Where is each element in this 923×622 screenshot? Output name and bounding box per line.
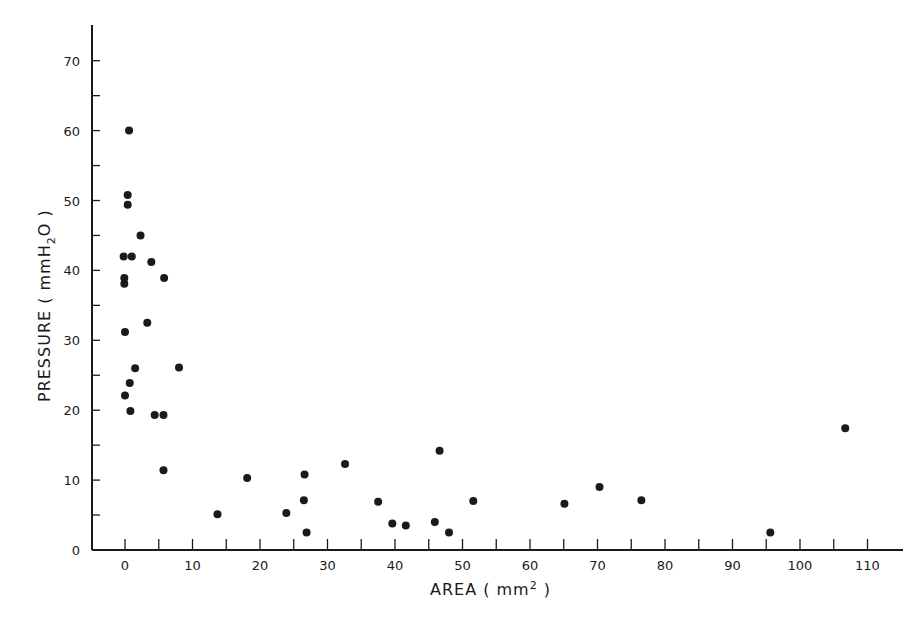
data-point — [147, 258, 155, 266]
data-point — [436, 447, 444, 455]
x-axis-ticks: 0102030405060708090100110 — [121, 539, 880, 573]
data-point — [560, 500, 568, 508]
data-point — [160, 274, 168, 282]
data-point — [175, 364, 183, 372]
data-point — [120, 280, 128, 288]
data-point — [143, 319, 151, 327]
y-tick-label: 50 — [63, 194, 80, 209]
y-axis-title: PRESSURE ( mmH2O ) — [35, 209, 58, 402]
y-axis-ticks: 010203040506070 — [63, 54, 100, 558]
y-tick-label: 0 — [72, 543, 80, 558]
data-point — [121, 392, 129, 400]
data-point — [151, 411, 159, 419]
data-point — [637, 496, 645, 504]
data-point — [124, 191, 132, 199]
data-point — [402, 522, 410, 530]
data-point — [766, 529, 774, 537]
x-tick-label: 20 — [252, 558, 269, 573]
data-point — [124, 201, 132, 209]
data-point — [137, 231, 145, 239]
data-point — [131, 364, 139, 372]
x-tick-label: 0 — [121, 558, 129, 573]
data-point — [126, 379, 134, 387]
data-point — [596, 483, 604, 491]
x-tick-label: 40 — [387, 558, 404, 573]
data-point — [303, 529, 311, 537]
data-point — [282, 509, 290, 517]
data-points — [120, 127, 850, 537]
data-point — [388, 519, 396, 527]
y-tick-label: 70 — [63, 54, 80, 69]
x-tick-label: 90 — [724, 558, 741, 573]
y-tick-label: 10 — [63, 473, 80, 488]
data-point — [125, 127, 133, 135]
y-tick-label: 30 — [63, 333, 80, 348]
x-tick-label: 100 — [788, 558, 813, 573]
x-axis-title: AREA ( mm2 ) — [430, 579, 551, 599]
data-point — [128, 252, 136, 260]
data-point — [301, 471, 309, 479]
data-point — [431, 518, 439, 526]
data-point — [126, 407, 134, 415]
x-tick-label: 10 — [184, 558, 201, 573]
data-point — [341, 460, 349, 468]
data-point — [374, 498, 382, 506]
x-tick-label: 70 — [589, 558, 606, 573]
y-tick-label: 40 — [63, 263, 80, 278]
data-point — [121, 328, 129, 336]
data-point — [159, 411, 167, 419]
x-tick-label: 30 — [319, 558, 336, 573]
data-point — [243, 474, 251, 482]
data-point — [300, 496, 308, 504]
y-axis: 010203040506070 — [63, 25, 100, 558]
y-tick-label: 60 — [63, 124, 80, 139]
y-tick-label: 20 — [63, 403, 80, 418]
data-point — [469, 497, 477, 505]
x-tick-label: 80 — [657, 558, 674, 573]
data-point — [841, 424, 849, 432]
data-point — [213, 510, 221, 518]
x-tick-label: 110 — [855, 558, 880, 573]
data-point — [120, 252, 128, 260]
data-point — [445, 529, 453, 537]
x-tick-label: 60 — [522, 558, 539, 573]
x-tick-label: 50 — [454, 558, 471, 573]
data-point — [159, 466, 167, 474]
scatter-chart: 010203040506070 010203040506070809010011… — [0, 0, 923, 622]
x-axis: 0102030405060708090100110 — [92, 539, 903, 573]
